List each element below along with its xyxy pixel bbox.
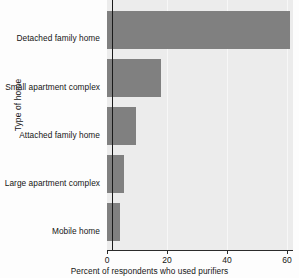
category-label-attached-family-home: Attached family home <box>0 130 100 140</box>
chart-figure: Type of home Detached family home Small … <box>0 0 299 278</box>
bar-mobile-home <box>107 203 120 241</box>
x-tick-label-20: 20 <box>155 255 179 265</box>
x-tick-40 <box>227 250 228 254</box>
bar-row <box>107 107 293 145</box>
plot-inner <box>107 0 293 250</box>
category-label-small-apartment-complex: Small apartment complex <box>0 82 100 92</box>
x-tick-label-0: 0 <box>95 255 119 265</box>
bar-row <box>107 59 293 97</box>
y-axis-tick-labels: Detached family home Small apartment com… <box>0 6 103 250</box>
bar-small-apartment-complex <box>107 59 161 97</box>
x-tick-label-60: 60 <box>275 255 299 265</box>
x-tick-20 <box>167 250 168 254</box>
category-label-mobile-home: Mobile home <box>0 226 100 236</box>
bar-row <box>107 11 293 49</box>
category-label-large-apartment-complex: Large apartment complex <box>0 178 100 188</box>
bar-row <box>107 155 293 193</box>
bar-row <box>107 203 293 241</box>
x-tick-label-40: 40 <box>215 255 239 265</box>
bar-detached-family-home <box>107 11 290 49</box>
x-tick-60 <box>287 250 288 254</box>
bar-large-apartment-complex <box>107 155 124 193</box>
zero-reference-line <box>112 0 113 250</box>
plot-area <box>107 0 293 250</box>
x-axis-line <box>107 250 293 251</box>
category-label-detached-family-home: Detached family home <box>0 33 100 43</box>
x-axis-title: Percent of respondents who used purifier… <box>0 266 299 276</box>
x-tick-0 <box>107 250 108 254</box>
